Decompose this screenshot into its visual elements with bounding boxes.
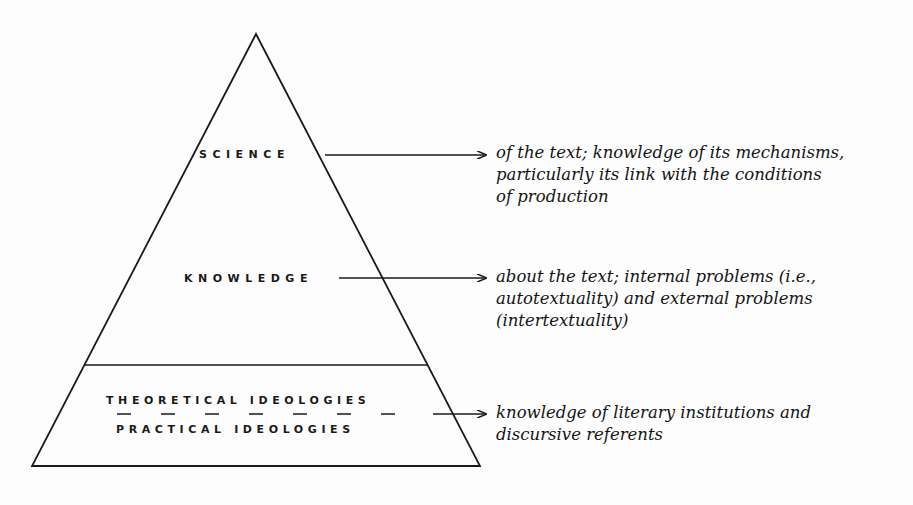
tier-label-theoretical-ideologies: THEORETICAL IDEOLOGIES <box>106 394 370 407</box>
ideologies-description: knowledge of literary institutions and d… <box>496 402 811 446</box>
science-description-line: of the text; knowledge of its mechanisms… <box>496 142 844 164</box>
knowledge-description: about the text; internal problems (i.e.,… <box>496 266 816 332</box>
ideologies-description-line: discursive referents <box>496 424 811 446</box>
science-description: of the text; knowledge of its mechanisms… <box>496 142 844 208</box>
knowledge-description-line: autotextuality) and external problems <box>496 288 816 310</box>
knowledge-description-line: about the text; internal problems (i.e., <box>496 266 816 288</box>
pyramid-diagram: SCIENCE KNOWLEDGE THEORETICAL IDEOLOGIES… <box>0 0 913 505</box>
science-description-line: of production <box>496 186 844 208</box>
science-description-line: particularly its link with the condition… <box>496 164 844 186</box>
ideologies-description-line: knowledge of literary institutions and <box>496 402 811 424</box>
tier-label-knowledge: KNOWLEDGE <box>184 272 313 285</box>
tier-label-science: SCIENCE <box>199 148 290 161</box>
knowledge-description-line: (intertextuality) <box>496 310 816 332</box>
tier-label-practical-ideologies: PRACTICAL IDEOLOGIES <box>116 423 355 436</box>
